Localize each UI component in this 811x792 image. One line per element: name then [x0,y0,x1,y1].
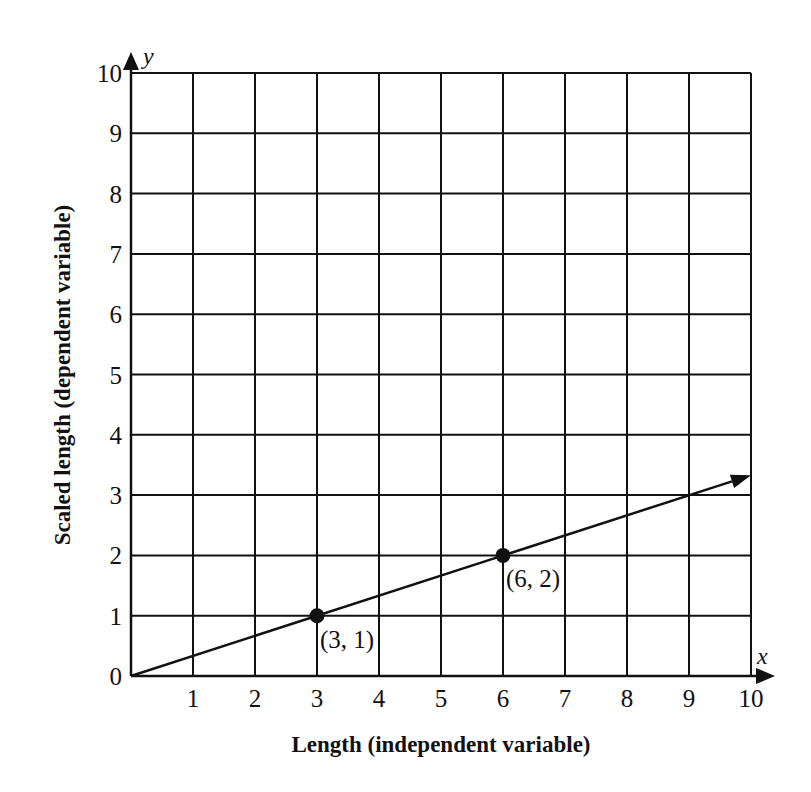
x-tick-label: 10 [739,685,764,712]
y-axis-variable: y [141,43,154,69]
data-point [496,548,511,563]
x-axis-label: Length (independent variable) [291,732,590,757]
y-axis-label: Scaled length (dependent variable) [50,205,75,546]
y-tick-label: 0 [110,663,123,690]
x-tick-label: 7 [559,685,572,712]
x-tick-label: 6 [497,685,510,712]
axes [123,52,775,684]
y-tick-label: 5 [110,362,123,389]
data-point-label: (3, 1) [320,626,374,654]
y-tick-label: 10 [97,60,122,87]
y-tick-label: 4 [110,422,123,449]
data-point [310,608,325,623]
y-tick-label: 6 [110,301,123,328]
line-arrow-icon [730,475,751,488]
x-tick-label: 8 [621,685,634,712]
x-tick-label: 5 [435,685,448,712]
line-chart: 12345678910012345678910 (3, 1)(6, 2) y x… [0,0,811,792]
tick-labels: 12345678910012345678910 [97,60,764,712]
x-tick-label: 2 [249,685,262,712]
y-tick-label: 9 [110,120,123,147]
data-point-label: (6, 2) [506,565,560,593]
y-tick-label: 2 [110,542,123,569]
x-axis-variable: x [756,643,768,669]
x-tick-label: 9 [683,685,696,712]
data-points: (3, 1)(6, 2) [310,548,561,654]
x-axis-arrow-icon [756,668,775,684]
series-line [131,481,732,676]
y-tick-label: 8 [110,181,123,208]
y-tick-label: 7 [110,241,123,268]
x-tick-label: 4 [373,685,386,712]
x-tick-label: 3 [311,685,324,712]
y-axis-arrow-icon [123,52,139,70]
grid-lines [131,73,751,676]
x-tick-label: 1 [187,685,200,712]
y-tick-label: 3 [110,482,123,509]
y-tick-label: 1 [110,603,123,630]
